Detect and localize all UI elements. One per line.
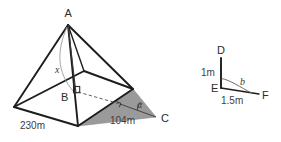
- reference-hypotenuse-ef: [221, 88, 259, 94]
- label-vertex-c: C: [161, 112, 169, 124]
- label-reference-vertical-1m: 1m: [201, 67, 215, 78]
- edge-apex-left: [14, 25, 68, 107]
- label-height-x: x: [54, 64, 60, 75]
- label-reference-angle-b: b: [240, 76, 245, 87]
- figure-canvas: A B C x α 230m 104m D E F 1m 1.5m b: [0, 0, 281, 142]
- label-reference-horizontal-1-5m: 1.5m: [221, 95, 243, 106]
- label-vertex-d: D: [217, 44, 225, 56]
- geometry-figure: A B C x α 230m 104m D E F 1m 1.5m b: [0, 0, 281, 142]
- label-vertex-e: E: [211, 82, 218, 94]
- label-base-edge-230m: 230m: [20, 120, 45, 131]
- label-slant-edge-104m: 104m: [110, 115, 135, 126]
- label-vertex-a: A: [65, 7, 73, 19]
- label-angle-alpha: α: [137, 99, 143, 110]
- label-vertex-b: B: [61, 91, 68, 103]
- edge-apex-right: [68, 25, 133, 89]
- label-vertex-f: F: [262, 89, 269, 101]
